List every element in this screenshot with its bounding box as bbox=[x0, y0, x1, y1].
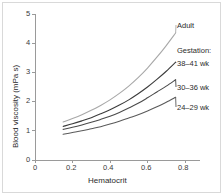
series-curve-1 bbox=[63, 62, 176, 126]
axes-group bbox=[32, 14, 200, 163]
series-label-adult: Adult bbox=[177, 22, 194, 30]
legend-group-title: Gestation: bbox=[177, 47, 211, 55]
y-tick-label: 5 bbox=[26, 10, 30, 18]
series-label-24-29wk: 24–29 wk bbox=[177, 104, 209, 112]
y-tick-label: 3 bbox=[26, 68, 30, 76]
y-tick-label: 4 bbox=[26, 39, 30, 47]
y-tick-label: 0 bbox=[26, 156, 30, 164]
x-tick-label: 0.8 bbox=[178, 164, 188, 172]
series-label-30-36wk: 30–36 wk bbox=[177, 84, 209, 92]
y-axis-title: Blood viscosity (mPa s) bbox=[12, 65, 20, 148]
series-label-38-41wk: 38–41 wk bbox=[177, 60, 209, 68]
chart-figure: 5 4 3 2 1 0 0 0.2 0.4 0.6 0.8 Hematocrit… bbox=[0, 0, 224, 196]
x-tick-label: 0 bbox=[33, 164, 37, 172]
x-axis-title: Hematocrit bbox=[88, 177, 127, 185]
x-tick-label: 0.6 bbox=[141, 164, 151, 172]
x-tick-label: 0.4 bbox=[103, 164, 113, 172]
x-tick-label: 0.2 bbox=[66, 164, 76, 172]
y-tick-label: 1 bbox=[26, 127, 30, 135]
y-tick-label: 2 bbox=[26, 97, 30, 105]
curves-group bbox=[63, 25, 176, 134]
